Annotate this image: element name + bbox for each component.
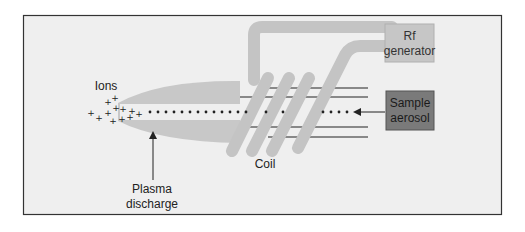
svg-text:+: + xyxy=(104,97,112,107)
svg-text:+: + xyxy=(109,116,117,126)
svg-text:+: + xyxy=(87,108,95,118)
plasma-label-line1: Plasma xyxy=(132,182,172,196)
svg-text:+: + xyxy=(126,112,134,122)
svg-text:+: + xyxy=(111,93,119,103)
svg-text:+: + xyxy=(118,114,126,124)
rf-generator-box: Rf generator xyxy=(384,24,435,62)
coil-label: Coil xyxy=(255,157,276,171)
icp-diagram: + + + + + + + + + + + + Rf generator Sam… xyxy=(0,0,525,232)
plasma-label-line2: discharge xyxy=(126,197,178,211)
ions-label: Ions xyxy=(95,79,118,93)
sample-aerosol-label-line1: Sample xyxy=(390,96,431,110)
sample-aerosol-label-line2: aerosol xyxy=(390,111,429,125)
rf-generator-label-line2: generator xyxy=(384,44,435,58)
sample-aerosol-box: Sample aerosol xyxy=(386,91,434,130)
rf-generator-label-line1: Rf xyxy=(404,29,417,43)
svg-text:+: + xyxy=(135,109,143,119)
svg-text:+: + xyxy=(95,113,103,123)
